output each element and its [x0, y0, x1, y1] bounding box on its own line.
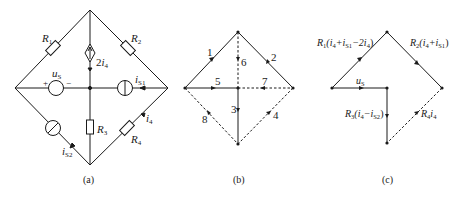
panel-c-labels: R1(i4+iS1−2i4) R2(i4+iS1) uS R3(i4−iS2) …	[316, 37, 448, 186]
label-branch-4: 4	[273, 109, 279, 121]
label-r1: R1	[41, 32, 53, 46]
label-branch-7: 7	[262, 75, 268, 87]
node-c-bottom	[385, 141, 388, 144]
label-v4: R4i4	[420, 108, 437, 120]
label-branch-2: 2	[271, 51, 277, 63]
label-i4: i4	[146, 112, 153, 126]
arrow-3-icon	[236, 108, 240, 112]
node-dot	[88, 86, 91, 89]
label-dep-source: 2i4	[96, 56, 109, 70]
arrow-c4-icon	[414, 111, 419, 115]
node-left	[183, 86, 186, 89]
node-bottom	[236, 142, 239, 145]
arrow-6-icon	[236, 57, 240, 61]
panel-b	[183, 30, 294, 145]
panel-a	[15, 10, 168, 165]
resistor-r3	[87, 120, 94, 134]
node-center	[236, 86, 239, 89]
node-c-center	[385, 86, 388, 89]
node-top	[236, 30, 239, 33]
node-c-top	[385, 30, 388, 33]
label-r3: R3	[96, 123, 108, 137]
label-branch-8: 8	[202, 113, 208, 125]
label-branch-6: 6	[241, 56, 247, 68]
label-v2: R2(i4+iS1)	[409, 37, 448, 49]
panel-b-labels: 1 2 3 4 5 6 7 8 (b)	[202, 46, 279, 186]
label-us: uS	[52, 67, 62, 81]
label-r2: R2	[130, 32, 142, 46]
label-r4: R4	[130, 133, 142, 147]
label-branch-1: 1	[207, 46, 213, 58]
arrow-c3-icon	[385, 114, 389, 118]
label-plus: +	[43, 78, 48, 88]
label-branch-3: 3	[231, 103, 237, 115]
label-is1: iS1	[135, 73, 146, 87]
label-minus: −	[66, 78, 71, 88]
branch-8	[185, 88, 238, 144]
label-branch-5: 5	[215, 75, 221, 87]
label-v3: R3(i4−iS2)	[344, 108, 383, 120]
node-c-left	[330, 86, 333, 89]
circuit-figure: R1 R2 2i4 uS + − iS1 iS2 R3 R4 i4 (a)	[0, 0, 453, 197]
branch-4	[238, 88, 293, 144]
caption-b: (b)	[233, 174, 245, 186]
label-v1: R1(i4+iS1−2i4)	[316, 37, 373, 49]
panel-a-labels: R1 R2 2i4 uS + − iS1 iS2 R3 R4 i4 (a)	[41, 32, 153, 186]
node-c-right	[440, 86, 443, 89]
caption-a: (a)	[83, 174, 94, 186]
voltage-source-us	[49, 81, 64, 96]
caption-c: (c)	[382, 174, 393, 186]
label-v5: uS	[356, 75, 365, 87]
node-right	[291, 86, 294, 89]
i4-arrow-icon	[141, 113, 145, 117]
